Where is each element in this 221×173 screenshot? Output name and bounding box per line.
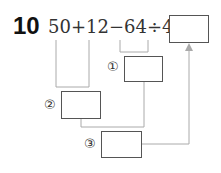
step-3-box[interactable]	[101, 131, 142, 158]
problem-number: 10	[13, 14, 40, 38]
expression: 50+12−64÷4=	[48, 17, 189, 37]
step-2-box[interactable]	[61, 91, 101, 119]
step-3-label: ③	[84, 137, 96, 151]
step-1-label: ①	[107, 60, 119, 74]
answer-box[interactable]	[169, 15, 209, 43]
step-2-label: ②	[44, 98, 56, 112]
step-1-box[interactable]	[124, 56, 163, 82]
